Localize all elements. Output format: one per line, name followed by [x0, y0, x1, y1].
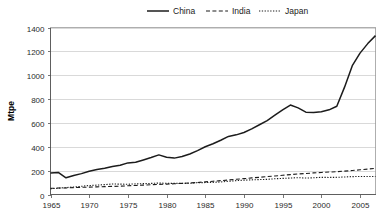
y-tick-labels: 0200400600800100012001400	[27, 25, 51, 201]
legend: China India Japan	[147, 6, 308, 16]
y-tick-label: 400	[31, 144, 45, 153]
series-line-china	[51, 36, 376, 178]
y-tick-label: 1200	[27, 48, 45, 57]
legend-label-china: China	[173, 6, 195, 16]
y-tick-label: 200	[31, 168, 45, 177]
x-tick-label: 1990	[236, 201, 254, 210]
x-tick-label: 2000	[313, 201, 331, 210]
y-tick-label: 1000	[27, 72, 45, 81]
x-tick-label: 1965	[43, 201, 61, 210]
x-tick-labels: 196519701975198019851990199520002005	[43, 195, 370, 210]
y-tick-label: 800	[31, 96, 45, 105]
line-chart: China India Japan 0200400600800100012001…	[0, 0, 387, 219]
y-axis: 0200400600800100012001400 Mtpe	[6, 25, 51, 201]
data-series	[51, 36, 376, 189]
y-tick-label: 1400	[27, 25, 45, 34]
x-tick-label: 1975	[120, 201, 138, 210]
y-axis-title: Mtpe	[6, 101, 16, 121]
legend-item-india: India	[206, 6, 251, 16]
legend-label-india: India	[232, 6, 251, 16]
x-axis: 196519701975198019851990199520002005	[43, 195, 376, 210]
x-tick-label: 2005	[352, 201, 370, 210]
chart-container: China India Japan 0200400600800100012001…	[0, 0, 387, 219]
x-tick-label: 1985	[197, 201, 215, 210]
y-tick-label: 0	[40, 192, 45, 201]
x-tick-label: 1995	[275, 201, 293, 210]
gridlines	[51, 29, 376, 172]
x-tick-label: 1970	[81, 201, 99, 210]
legend-item-china: China	[147, 6, 195, 16]
y-tick-label: 600	[31, 120, 45, 129]
x-tick-label: 1980	[159, 201, 177, 210]
legend-label-japan: Japan	[285, 6, 308, 16]
legend-item-japan: Japan	[259, 6, 308, 16]
